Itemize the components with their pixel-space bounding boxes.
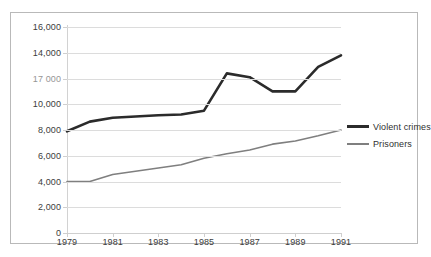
y-axis-tick bbox=[63, 156, 67, 157]
gridline bbox=[67, 53, 341, 54]
x-axis-tick-label: 1987 bbox=[239, 237, 259, 247]
plot-area bbox=[67, 27, 341, 233]
legend-swatch-prisoners bbox=[347, 143, 369, 145]
series-line-violent-crimes bbox=[67, 55, 341, 131]
gridline bbox=[67, 156, 341, 157]
y-axis-tick-label: 17 000 bbox=[33, 74, 61, 84]
chart-legend: Violent crimes Prisoners bbox=[347, 119, 427, 153]
x-axis-tick-label: 1991 bbox=[331, 237, 351, 247]
legend-label-violent-crimes: Violent crimes bbox=[373, 122, 431, 132]
y-axis-tick bbox=[63, 104, 67, 105]
gridline bbox=[67, 182, 341, 183]
x-axis-tick-labels: 1979198119831985198719891991 bbox=[67, 237, 341, 253]
y-axis-tick-label: 10,000 bbox=[33, 99, 61, 109]
y-axis-tick-label: 14,000 bbox=[33, 48, 61, 58]
legend-label-prisoners: Prisoners bbox=[373, 139, 412, 149]
y-axis-tick-label: 2,000 bbox=[38, 202, 61, 212]
y-axis-tick bbox=[63, 79, 67, 80]
y-axis-tick-label: 8,000 bbox=[38, 125, 61, 135]
y-axis-tick-label: 6,000 bbox=[38, 151, 61, 161]
gridline bbox=[67, 79, 341, 80]
y-axis-tick-labels: 16,00014,00017 00010,0008,0006,0004,0002… bbox=[11, 27, 61, 233]
x-axis-tick-label: 1985 bbox=[194, 237, 214, 247]
y-axis-tick bbox=[63, 182, 67, 183]
x-axis-tick-label: 1989 bbox=[285, 237, 305, 247]
gridline bbox=[67, 27, 341, 28]
gridline bbox=[67, 130, 341, 131]
y-axis-tick-label: 4,000 bbox=[38, 177, 61, 187]
legend-item-violent-crimes: Violent crimes bbox=[347, 119, 427, 134]
legend-swatch-violent-crimes bbox=[347, 125, 369, 128]
legend-item-prisoners: Prisoners bbox=[347, 136, 427, 151]
y-axis-tick bbox=[63, 207, 67, 208]
x-axis-tick-label: 1979 bbox=[57, 237, 77, 247]
y-axis-tick bbox=[63, 53, 67, 54]
y-axis-tick bbox=[63, 27, 67, 28]
gridline bbox=[67, 104, 341, 105]
y-axis-tick bbox=[63, 130, 67, 131]
x-axis-tick-label: 1981 bbox=[102, 237, 122, 247]
x-axis-tick-label: 1983 bbox=[148, 237, 168, 247]
chart-frame: 16,00014,00017 00010,0008,0006,0004,0002… bbox=[10, 12, 418, 244]
gridline bbox=[67, 207, 341, 208]
y-axis-tick-label: 16,000 bbox=[33, 22, 61, 32]
